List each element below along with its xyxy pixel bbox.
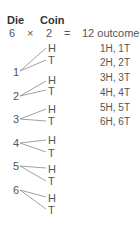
die-node-2: 2	[13, 90, 19, 102]
coin-node-4-h: H	[48, 134, 56, 146]
coin-node-4-t: T	[48, 147, 55, 159]
die-node-4: 4	[13, 137, 19, 149]
outcome-2: 2H, 2T	[100, 57, 130, 69]
coin-node-3-t: T	[48, 115, 55, 127]
coin-node-1-h: H	[48, 42, 56, 54]
coin-node-1-t: T	[48, 54, 55, 66]
outcome-4: 4H, 4T	[100, 87, 130, 99]
outcome-1: 1H, 1T	[100, 43, 130, 55]
coin-node-5-h: H	[48, 163, 56, 175]
die-node-3: 3	[13, 113, 19, 125]
outcome-6: 6H, 6T	[100, 116, 130, 128]
die-node-5: 5	[13, 160, 19, 172]
die-node-1: 1	[13, 66, 19, 78]
coin-node-5-t: T	[48, 175, 55, 187]
die-node-6: 6	[13, 184, 19, 196]
coin-node-2-t: T	[48, 85, 55, 97]
outcome-3: 3H, 3T	[100, 72, 130, 84]
coin-node-3-h: H	[48, 103, 56, 115]
coin-node-6-h: H	[48, 192, 56, 204]
outcome-5: 5H, 5T	[100, 102, 130, 114]
coin-node-6-t: T	[48, 204, 55, 216]
